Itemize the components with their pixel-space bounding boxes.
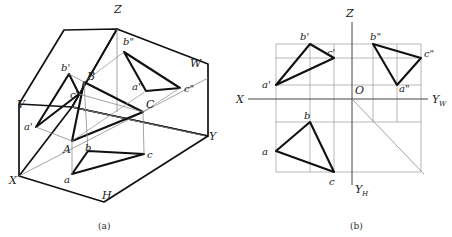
label-axis-X-a: X bbox=[8, 174, 18, 187]
label-b-point-b-h: b bbox=[304, 110, 310, 121]
label-axis-YW-sub: W bbox=[439, 100, 447, 108]
axis-y-line bbox=[72, 107, 205, 136]
caption-b: (b) bbox=[350, 221, 363, 231]
label-point-b-prime: b' bbox=[61, 62, 70, 73]
h-plane-outline bbox=[19, 107, 208, 202]
label-point-c-h: c bbox=[147, 149, 153, 160]
panel-a-group: V H W Z X Y A B C a' b' c' a b c a" b" c… bbox=[8, 3, 218, 202]
projector-B-to-b bbox=[84, 82, 88, 151]
label-point-b-double: b" bbox=[123, 36, 134, 47]
label-point-C: C bbox=[146, 98, 155, 111]
label-origin-O: O bbox=[355, 84, 364, 97]
label-b-point-c-double: c" bbox=[424, 48, 434, 59]
label-axis-Z-a: Z bbox=[113, 3, 122, 16]
label-point-B: B bbox=[86, 70, 95, 83]
label-b-point-a-prime: a' bbox=[262, 79, 271, 90]
label-b-point-c-h: c bbox=[329, 176, 335, 187]
bisector-line-45deg bbox=[352, 99, 424, 174]
frontal-triangle-b bbox=[276, 44, 334, 85]
projector-C-to-c bbox=[143, 112, 144, 154]
caption-a: (a) bbox=[98, 221, 110, 231]
label-b-point-c-prime: c' bbox=[327, 47, 335, 58]
figure-root: V H W Z X Y A B C a' b' c' a b c a" b" c… bbox=[0, 0, 452, 237]
label-point-a-double: a" bbox=[132, 81, 143, 92]
label-axis-X-b: X bbox=[235, 93, 245, 106]
label-point-c-prime: c' bbox=[70, 89, 78, 100]
label-b-point-b-prime: b' bbox=[300, 31, 309, 42]
frontal-triangle-abc-prime bbox=[36, 74, 79, 127]
label-axis-Z-b: Z bbox=[345, 7, 354, 20]
label-point-A: A bbox=[62, 143, 71, 156]
horizontal-triangle-abc bbox=[72, 151, 144, 174]
label-point-b-h: b bbox=[85, 142, 91, 153]
horizontal-triangle-b bbox=[276, 122, 334, 172]
panel-b-group: Z X Y W Y H O a' b' c' a" b" c" a b c bbox=[235, 7, 447, 198]
technical-drawing-svg: V H W Z X Y A B C a' b' c' a b c a" b" c… bbox=[0, 0, 452, 237]
label-plane-W: W bbox=[190, 57, 203, 70]
label-point-a-prime: a' bbox=[24, 121, 33, 132]
label-point-c-double: c" bbox=[184, 83, 194, 94]
label-b-point-a-h: a bbox=[262, 146, 268, 157]
label-b-point-b-double: b" bbox=[370, 31, 381, 42]
label-point-a-h: a bbox=[64, 174, 70, 185]
label-b-point-a-double: a" bbox=[399, 83, 410, 94]
label-axis-YH-sub: H bbox=[361, 190, 369, 198]
label-axis-Y-a: Y bbox=[209, 130, 218, 143]
axis-x-line bbox=[19, 112, 143, 176]
label-plane-H: H bbox=[101, 189, 112, 202]
label-plane-V: V bbox=[17, 98, 26, 111]
